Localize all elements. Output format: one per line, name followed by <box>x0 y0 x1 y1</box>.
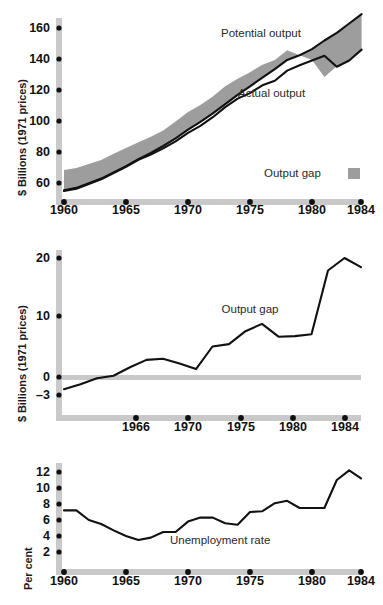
panel3-xtick-1960: 1960 <box>50 574 78 588</box>
actual-output-label: Actual output <box>238 87 306 99</box>
panel-output-levels: $ Billions (1971 prices) 160 140 120 100… <box>0 0 383 215</box>
panel2-xtick-1980: 1980 <box>279 420 307 434</box>
panel3-ytick-12: 12 <box>36 465 50 479</box>
panel1-ytick-80: 80 <box>36 145 50 159</box>
panel3-ylabel: Per cent <box>22 547 34 590</box>
panel1-xtick-1975: 1975 <box>236 203 264 215</box>
panel2-ytick-neg3: –3 <box>36 388 50 402</box>
panel1-plot: 160 140 120 100 80 60 Potential output A… <box>0 0 383 215</box>
panel2-xtick-1984: 1984 <box>331 420 359 434</box>
panel3-xtick-1980: 1980 <box>298 574 326 588</box>
panel1-xtick-1980: 1980 <box>298 203 326 215</box>
panel3-xtick-1970: 1970 <box>174 574 202 588</box>
panel2-ytick-0: 0 <box>43 370 50 384</box>
panel3-ytick-4: 4 <box>43 529 50 543</box>
panel1-ytick-160: 160 <box>29 21 50 35</box>
legend-swatch-output-gap <box>348 168 360 179</box>
figure-root: $ Billions (1971 prices) 160 140 120 100… <box>0 0 383 605</box>
panel3-plot: 12 10 8 6 4 2 Unemployment rate 1960 196… <box>0 455 383 605</box>
unemployment-rate-line <box>64 470 361 540</box>
panel-unemployment: Per cent 12 10 8 6 4 2 Une <box>0 455 383 605</box>
panel2-ytick-20: 20 <box>36 251 50 265</box>
panel1-ytick-100: 100 <box>29 114 50 128</box>
panel3-ytick-10: 10 <box>36 481 50 495</box>
panel1-xtick-1984: 1984 <box>347 203 375 215</box>
panel1-xtick-1970: 1970 <box>174 203 202 215</box>
panel2-x-axis <box>56 415 361 421</box>
panel3-xtick-1975: 1975 <box>236 574 264 588</box>
panel2-plot: 20 10 0 –3 Output gap 1966 1970 1975 198… <box>0 240 383 445</box>
panel1-xtick-1965: 1965 <box>112 203 140 215</box>
panel3-ytick-2: 2 <box>43 545 50 559</box>
panel2-ytick-10: 10 <box>36 309 50 323</box>
output-gap-band <box>64 14 362 190</box>
panel2-xtick-1966: 1966 <box>122 420 150 434</box>
panel2-xtick-1975: 1975 <box>227 420 255 434</box>
potential-output-label: Potential output <box>221 27 302 39</box>
panel2-ylabel: $ Billions (1971 prices) <box>16 305 28 422</box>
panel3-ytick-8: 8 <box>43 497 50 511</box>
panel1-ytick-140: 140 <box>29 52 50 66</box>
panel3-ytick-6: 6 <box>43 513 50 527</box>
unemployment-rate-label: Unemployment rate <box>170 534 270 546</box>
output-gap-line <box>64 258 361 389</box>
panel-output-gap: $ Billions (1971 prices) 20 10 0 –3 Outp… <box>0 240 383 445</box>
panel1-ylabel: $ Billions (1971 prices) <box>16 79 28 196</box>
panel2-xtick-1970: 1970 <box>174 420 202 434</box>
panel1-xtick-1960: 1960 <box>50 203 78 215</box>
panel3-xtick-1984: 1984 <box>347 574 375 588</box>
panel3-xtick-1965: 1965 <box>112 574 140 588</box>
output-gap-label: Output gap <box>222 303 279 315</box>
panel1-ytick-120: 120 <box>29 83 50 97</box>
legend-label-output-gap: Output gap <box>264 167 321 179</box>
panel1-ytick-60: 60 <box>36 176 50 190</box>
panel1-y-axis <box>56 18 62 205</box>
